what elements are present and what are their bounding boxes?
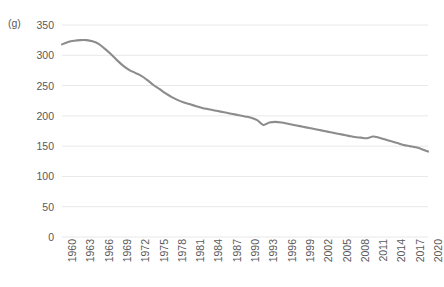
- x-axis-tick-label: 1966: [103, 239, 115, 262]
- x-axis-tick-label: 2017: [414, 239, 426, 262]
- plot-area: [62, 25, 428, 237]
- data-line-series-1: [62, 40, 428, 152]
- y-axis-tick-label: 150: [12, 140, 54, 152]
- y-axis-tick-label: 200: [12, 110, 54, 122]
- y-axis: 050100150200250300350: [8, 0, 54, 287]
- x-axis-tick-label: 2005: [341, 239, 353, 262]
- x-axis-tick-label: 1963: [84, 239, 96, 262]
- x-axis-tick-label: 1984: [212, 239, 224, 262]
- y-axis-tick-label: 250: [12, 80, 54, 92]
- x-axis-tick-label: 1993: [267, 239, 279, 262]
- x-axis-tick-label: 1987: [231, 239, 243, 262]
- x-axis-tick-label: 1996: [286, 239, 298, 262]
- y-axis-tick-label: 100: [12, 170, 54, 182]
- x-axis-tick-label: 2008: [359, 239, 371, 262]
- x-axis-tick-label: 2020: [432, 239, 444, 262]
- line-chart-svg: [62, 25, 428, 237]
- x-axis-tick-label: 1981: [194, 239, 206, 262]
- x-axis-tick-label: 2011: [377, 239, 389, 262]
- x-axis: 1960196319661969197219751978198119841987…: [62, 239, 428, 287]
- y-axis-tick-label: 350: [12, 19, 54, 31]
- x-axis-tick-label: 1990: [249, 239, 261, 262]
- x-axis-tick-label: 1969: [121, 239, 133, 262]
- x-axis-tick-label: 1999: [304, 239, 316, 262]
- x-axis-tick-label: 1975: [158, 239, 170, 262]
- gridlines: [62, 25, 428, 237]
- x-axis-tick-label: 1972: [139, 239, 151, 262]
- y-axis-tick-label: 0: [12, 231, 54, 243]
- y-axis-tick-label: 300: [12, 49, 54, 61]
- x-axis-tick-label: 2014: [395, 239, 407, 262]
- x-axis-tick-label: 2002: [322, 239, 334, 262]
- y-axis-tick-label: 50: [12, 201, 54, 213]
- x-axis-tick-label: 1960: [66, 239, 78, 262]
- x-axis-tick-label: 1978: [176, 239, 188, 262]
